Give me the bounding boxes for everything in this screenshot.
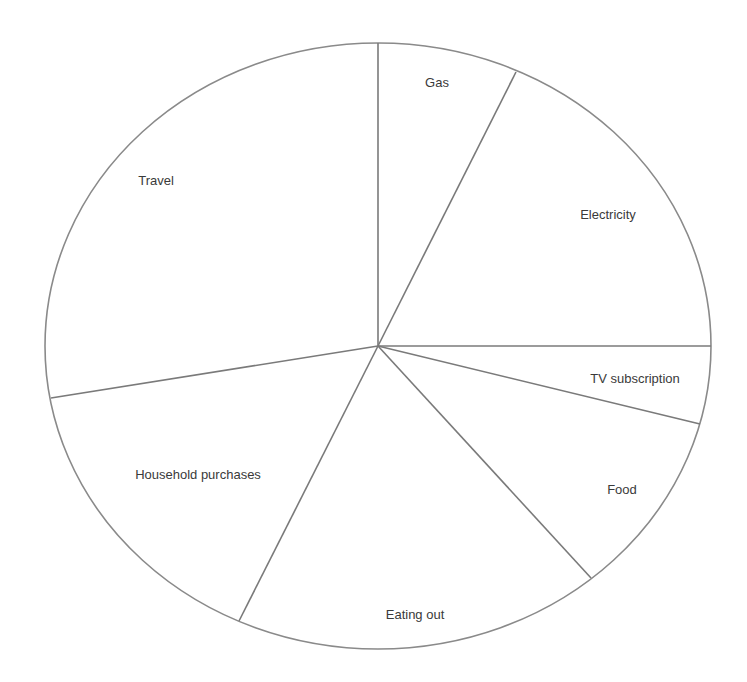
slice-label-electricity: Electricity [580,207,636,222]
slice-label-gas: Gas [425,75,449,90]
slice-label-household-purchases: Household purchases [135,467,261,482]
slice-label-food: Food [607,482,637,497]
slice-label-eating-out: Eating out [386,607,445,622]
pie-chart [0,0,747,682]
slice-label-travel: Travel [138,173,174,188]
slice-label-tv-subscription: TV subscription [590,371,680,386]
